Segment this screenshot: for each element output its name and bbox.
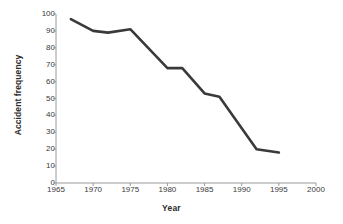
axis-lines (56, 14, 316, 183)
accident-frequency-line-chart: Accident frequency Year 0102030405060708… (0, 0, 343, 224)
data-series-line (71, 19, 279, 153)
plot-area (0, 0, 343, 224)
